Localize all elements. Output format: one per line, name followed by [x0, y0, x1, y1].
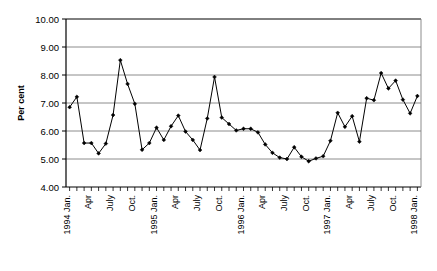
x-axis-tick-label: 1995 Jan. [149, 195, 159, 235]
data-point-marker [242, 127, 246, 131]
y-axis-tick-label: 9.00 [41, 42, 60, 53]
data-point-marker [133, 102, 137, 106]
data-point-marker [408, 111, 412, 115]
data-point-marker [336, 111, 340, 115]
data-point-marker [118, 58, 122, 62]
x-axis-tick-label: July [366, 195, 376, 212]
data-point-marker [401, 98, 405, 102]
data-point-marker [415, 94, 419, 98]
x-axis-tick-label: 1994 Jan. [62, 195, 72, 235]
x-axis-tick-label: Apr [170, 195, 180, 209]
data-point-marker [213, 75, 217, 79]
y-axis-tick-label: 7.00 [41, 98, 60, 109]
y-axis-tick-label: 4.00 [41, 182, 60, 193]
x-axis-tick-label: July [279, 195, 289, 212]
y-axis-title: Per cent [16, 85, 26, 121]
data-point-marker [82, 141, 86, 145]
x-axis-tick-label: Apr [257, 195, 267, 209]
data-point-marker [314, 157, 318, 161]
x-axis-tick-label: Oct. [127, 195, 137, 212]
data-point-marker [379, 71, 383, 75]
x-axis-tick-label: Oct. [301, 195, 311, 212]
x-axis-tick-label: Apr [344, 195, 354, 209]
data-point-marker [372, 98, 376, 102]
data-point-marker [126, 82, 130, 86]
chart-container: 10.009.008.007.006.005.004.00Per cent199… [0, 0, 437, 271]
y-axis-tick-label: 8.00 [41, 70, 60, 81]
x-axis-tick-label: July [192, 195, 202, 212]
x-axis-tick-label: 1997 Jan. [322, 195, 332, 235]
y-axis-tick-label: 5.00 [41, 154, 60, 165]
x-axis-tick-label: July [105, 195, 115, 212]
data-point-marker [329, 139, 333, 143]
y-axis-tick-label: 10.00 [35, 14, 59, 25]
data-point-marker [358, 140, 362, 144]
x-axis-tick-label: 1998 Jan. [409, 195, 419, 235]
data-point-marker [205, 117, 209, 121]
x-axis-tick-label: Oct. [214, 195, 224, 212]
y-axis-tick-label: 6.00 [41, 126, 60, 137]
line-chart: 10.009.008.007.006.005.004.00Per cent199… [0, 0, 437, 271]
x-axis-tick-label: 1996 Jan. [236, 195, 246, 235]
data-point-marker [321, 154, 325, 158]
data-point-marker [249, 127, 253, 131]
data-point-marker [111, 113, 115, 117]
x-axis-tick-label: Apr [83, 195, 93, 209]
x-axis-tick-label: Oct. [388, 195, 398, 212]
data-point-marker [365, 96, 369, 100]
